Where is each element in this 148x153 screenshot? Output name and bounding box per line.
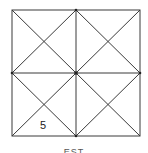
- right-mid-dot: [139, 72, 142, 75]
- bottom-mid-dot: [75, 135, 78, 138]
- top-mid-dot: [75, 9, 78, 12]
- region-label: 5: [40, 119, 46, 131]
- left-mid-dot: [11, 72, 14, 75]
- geometry-figure: 5: [0, 0, 148, 153]
- figure-caption: EST: [0, 147, 148, 153]
- center-dot: [74, 71, 78, 75]
